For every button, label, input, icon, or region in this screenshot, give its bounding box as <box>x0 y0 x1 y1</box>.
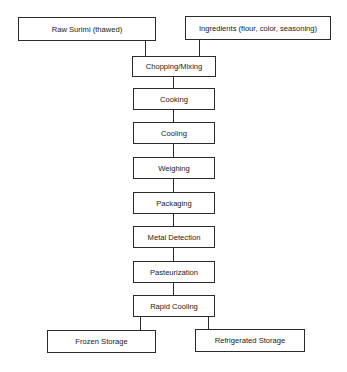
node-pasteurization: Pasteurization <box>133 261 215 283</box>
node-packaging: Packaging <box>133 192 215 214</box>
connector <box>199 40 200 56</box>
node-label: Ingredients (flour, color, seasoning) <box>199 24 317 33</box>
connector <box>140 317 141 330</box>
node-label: Packaging <box>156 199 191 208</box>
node-frozen-storage: Frozen Storage <box>47 330 156 353</box>
connector <box>173 248 174 261</box>
node-weighing: Weighing <box>133 157 215 179</box>
node-label: Frozen Storage <box>75 337 127 346</box>
connector <box>173 77 174 88</box>
node-refrigerated-storage: Refrigerated Storage <box>195 329 305 352</box>
node-label: Cooking <box>160 95 188 104</box>
connector <box>173 283 174 295</box>
node-label: Weighing <box>158 164 190 173</box>
connector <box>173 214 174 226</box>
connector <box>145 41 146 56</box>
node-chopping-mixing: Chopping/Mixing <box>132 56 216 77</box>
connector <box>173 179 174 192</box>
node-rapid-cooling: Rapid Cooling <box>133 295 215 317</box>
node-cooling: Cooling <box>133 122 215 144</box>
node-label: Cooling <box>161 129 187 138</box>
node-cooking: Cooking <box>133 88 215 110</box>
connector <box>173 144 174 157</box>
connector <box>208 317 209 329</box>
node-label: Chopping/Mixing <box>146 62 203 71</box>
connector <box>173 110 174 122</box>
node-label: Refrigerated Storage <box>215 336 286 345</box>
node-raw-surimi: Raw Surimi (thawed) <box>18 17 156 41</box>
node-ingredients: Ingredients (flour, color, seasoning) <box>185 16 331 40</box>
node-label: Raw Surimi (thawed) <box>52 25 122 34</box>
node-label: Rapid Cooling <box>150 302 198 311</box>
node-label: Pasteurization <box>150 268 198 277</box>
node-label: Metal Detection <box>148 233 201 242</box>
node-metal-detection: Metal Detection <box>133 226 215 248</box>
